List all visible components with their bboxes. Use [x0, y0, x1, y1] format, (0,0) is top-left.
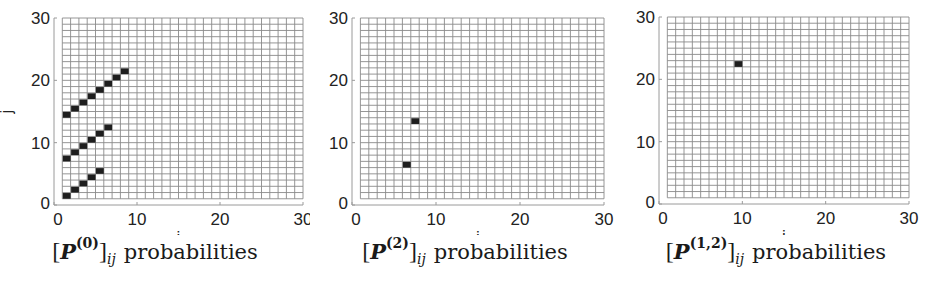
x-tick-label: 10 — [733, 209, 752, 228]
y-tick-label: 0 — [646, 193, 655, 212]
x-axis-label: i — [476, 228, 480, 235]
y-tick-label: 30 — [636, 8, 655, 27]
caption-word: probabilities — [434, 240, 568, 264]
x-tick-label: 10 — [427, 210, 446, 229]
x-tick-label: 0 — [53, 210, 62, 229]
filled-cell — [96, 87, 104, 93]
caption-superscript: (1,2) — [690, 235, 728, 251]
y-tick-label: 10 — [636, 133, 655, 152]
x-axis-label: i — [177, 228, 181, 235]
y-tick-label: 10 — [31, 134, 50, 153]
filled-cell — [411, 118, 419, 124]
caption-matrix: P — [370, 239, 386, 264]
caption-superscript: (2) — [386, 235, 409, 251]
caption-word: probabilities — [752, 240, 886, 264]
y-tick-label: 10 — [329, 134, 348, 153]
caption-word: probabilities — [124, 240, 258, 264]
filled-cell — [63, 112, 71, 118]
filled-cell — [88, 93, 96, 99]
caption-superscript: (0) — [76, 235, 99, 251]
grid-lattice — [667, 17, 909, 198]
panel-p12: 01020300102030i [P(1,2)]ijprobabilities — [620, 0, 932, 295]
filled-cell — [96, 168, 104, 174]
panel-p2: 01020300102030i [P(2)]ijprobabilities — [310, 0, 620, 295]
caption-close-bracket: ] — [409, 238, 417, 264]
caption-p0: [P(0)]ijprobabilities — [0, 238, 310, 267]
grid-lattice — [360, 18, 604, 199]
caption-subscript: ij — [107, 251, 116, 267]
filled-cell — [71, 106, 79, 112]
caption-close-bracket: ] — [99, 238, 107, 264]
caption-subscript: ij — [735, 251, 744, 267]
panel-p0: 01020300102030ij [P(0)]ijprobabilities — [0, 0, 310, 295]
filled-cell — [79, 181, 87, 187]
caption-matrix: P — [674, 239, 690, 264]
caption-matrix: P — [60, 239, 76, 264]
x-tick-label: 30 — [595, 210, 614, 229]
filled-cell — [96, 131, 104, 137]
x-tick-label: 20 — [211, 210, 230, 229]
x-tick-label: 0 — [658, 209, 667, 228]
y-tick-label: 30 — [329, 9, 348, 28]
y-tick-label: 0 — [339, 194, 348, 213]
filled-cell — [121, 68, 129, 74]
filled-cell — [88, 174, 96, 180]
plot-p12: 01020300102030i — [620, 0, 932, 235]
filled-cell — [88, 137, 96, 143]
y-tick-label: 20 — [636, 70, 655, 89]
filled-cell — [79, 100, 87, 106]
y-tick-label: 0 — [41, 194, 50, 213]
filled-cell — [104, 124, 112, 130]
x-tick-label: 20 — [511, 210, 530, 229]
filled-cell — [735, 61, 743, 67]
y-tick-label: 30 — [31, 9, 50, 28]
x-tick-label: 0 — [351, 210, 360, 229]
x-axis-label: i — [782, 227, 786, 235]
filled-cell — [63, 156, 71, 162]
caption-subscript: ij — [417, 251, 426, 267]
caption-p2: [P(2)]ijprobabilities — [310, 238, 620, 267]
caption-open-bracket: [ — [362, 238, 370, 264]
filled-cell — [104, 81, 112, 87]
filled-cell — [71, 149, 79, 155]
caption-open-bracket: [ — [52, 238, 60, 264]
x-tick-label: 30 — [294, 210, 310, 229]
y-tick-label: 20 — [31, 71, 50, 90]
filled-cell — [403, 162, 411, 168]
caption-p12: [P(1,2)]ijprobabilities — [620, 238, 932, 267]
plot-p2: 01020300102030i — [310, 0, 620, 235]
filled-cells — [735, 61, 743, 67]
x-tick-label: 20 — [816, 209, 835, 228]
y-axis-label: j — [0, 110, 16, 115]
filled-cell — [113, 75, 121, 81]
x-tick-label: 30 — [900, 209, 919, 228]
filled-cell — [79, 143, 87, 149]
plot-p0: 01020300102030ij — [0, 0, 310, 235]
filled-cell — [63, 193, 71, 199]
filled-cell — [71, 187, 79, 193]
x-tick-label: 10 — [128, 210, 147, 229]
caption-open-bracket: [ — [666, 238, 674, 264]
y-tick-label: 20 — [329, 71, 348, 90]
